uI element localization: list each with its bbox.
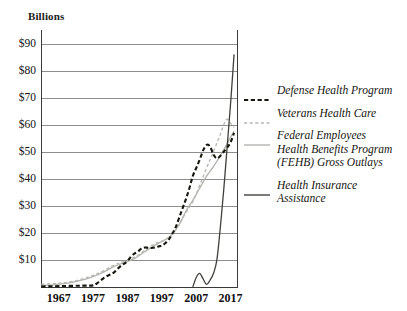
series-line — [42, 133, 235, 287]
legend-entry[interactable]: Federal Employees Health Benefits Progra… — [244, 129, 407, 170]
solid-line-icon — [244, 134, 270, 140]
y-axis-tick-label: $90 — [3, 37, 36, 49]
y-axis-tick-label: $30 — [3, 199, 36, 211]
legend-label: Federal Employees Health Benefits Progra… — [277, 129, 407, 170]
y-axis-tick-label: $40 — [3, 172, 36, 184]
series-plot-area — [41, 30, 238, 288]
y-axis-tick-label: $70 — [3, 91, 36, 103]
series-line — [193, 54, 234, 287]
x-axis-tick-label: 2017 — [211, 291, 251, 306]
dashed-line-icon — [244, 89, 270, 95]
dashed-line-icon — [244, 112, 270, 118]
y-axis-tick-label: $50 — [3, 145, 36, 157]
y-axis-tick-label: $60 — [3, 118, 36, 130]
series-line — [42, 131, 235, 285]
y-axis-tick-label: $20 — [3, 226, 36, 238]
y-axis-unit-label: Billions — [28, 10, 64, 22]
x-axis-tick-labels: 196719771987199720072017 — [41, 291, 238, 309]
legend-entry[interactable]: Health Insurance Assistance — [244, 179, 407, 206]
legend-label: Veterans Health Care — [277, 107, 407, 121]
legend-label: Defense Health Program — [277, 84, 407, 98]
chart-page: Billions $90$80$70$60$50$40$30$20$10 196… — [0, 0, 407, 311]
y-axis-tick-labels: $90$80$70$60$50$40$30$20$10 — [0, 30, 36, 288]
chart-legend: Defense Health ProgramVeterans Health Ca… — [244, 84, 407, 215]
legend-label: Health Insurance Assistance — [277, 179, 407, 206]
series-line — [42, 119, 235, 284]
y-axis-tick-label: $80 — [3, 64, 36, 76]
solid-line-icon — [244, 184, 270, 190]
legend-entry[interactable]: Veterans Health Care — [244, 107, 407, 121]
legend-entry[interactable]: Defense Health Program — [244, 84, 407, 98]
y-axis-tick-label: $10 — [3, 253, 36, 265]
